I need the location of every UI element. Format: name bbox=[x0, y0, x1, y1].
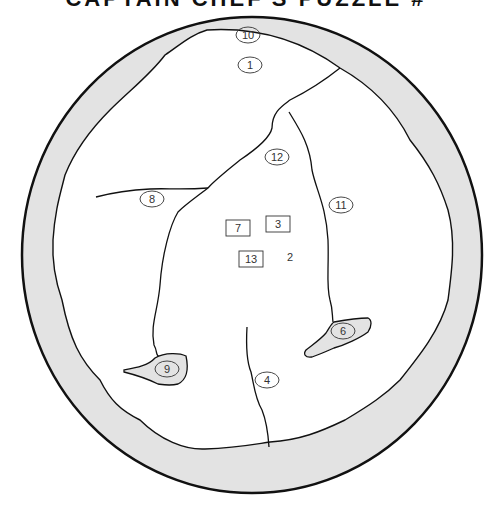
svg-text:10: 10 bbox=[242, 29, 254, 41]
svg-text:8: 8 bbox=[149, 193, 155, 205]
svg-text:12: 12 bbox=[271, 151, 283, 163]
svg-text:4: 4 bbox=[264, 374, 270, 386]
svg-text:1: 1 bbox=[247, 59, 253, 71]
svg-text:3: 3 bbox=[275, 218, 281, 230]
plain-label-2: 2 bbox=[287, 251, 293, 263]
svg-text:7: 7 bbox=[235, 222, 241, 234]
svg-text:6: 6 bbox=[340, 325, 346, 337]
svg-text:9: 9 bbox=[164, 363, 170, 375]
svg-text:13: 13 bbox=[245, 253, 257, 265]
svg-text:11: 11 bbox=[335, 199, 346, 211]
region-map: 10 1 12 8 11 6 9 4 7 3 13 2 bbox=[0, 0, 492, 508]
